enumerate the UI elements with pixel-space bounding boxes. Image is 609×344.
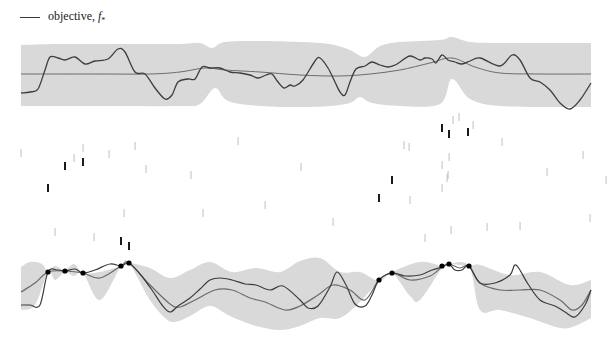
tick-mark <box>124 209 125 217</box>
evaluation-ticks <box>21 113 607 250</box>
tick-mark <box>135 142 136 150</box>
tick-mark <box>606 176 607 184</box>
tick-mark <box>583 151 584 159</box>
observation-point <box>80 270 85 275</box>
tick-mark <box>333 218 334 226</box>
tick-mark <box>83 144 84 152</box>
observation-point <box>126 260 131 265</box>
observation-point <box>62 268 67 273</box>
figure <box>0 0 609 344</box>
tick-mark <box>453 116 454 124</box>
tick-mark-selected <box>441 124 443 132</box>
observation-point <box>118 263 123 268</box>
tick-mark <box>487 223 488 231</box>
tick-mark <box>547 168 548 176</box>
tick-mark <box>502 138 503 146</box>
tick-mark-selected <box>378 194 380 202</box>
tick-mark <box>409 143 410 151</box>
tick-mark <box>404 141 405 149</box>
tick-mark-selected <box>47 184 49 192</box>
tick-mark <box>590 214 591 222</box>
observation-point <box>376 277 381 282</box>
tick-mark <box>451 226 452 234</box>
observation-point <box>466 263 471 268</box>
tick-mark <box>425 234 426 242</box>
tick-mark-selected <box>128 242 130 250</box>
observation-point <box>389 270 394 275</box>
tick-mark <box>146 165 147 173</box>
tick-mark-selected <box>120 237 122 245</box>
tick-mark <box>442 161 443 169</box>
tick-mark <box>94 233 95 241</box>
tick-mark <box>449 153 450 161</box>
tick-mark-selected <box>448 130 450 138</box>
tick-mark <box>265 201 266 209</box>
tick-mark <box>74 154 75 162</box>
tick-mark <box>109 150 110 158</box>
prior-uncertainty-band <box>21 37 591 107</box>
tick-mark-selected <box>467 128 469 136</box>
posterior-uncertainty-band <box>21 257 591 330</box>
tick-mark <box>448 171 449 179</box>
tick-mark-selected <box>82 158 84 166</box>
tick-mark <box>410 196 411 204</box>
observation-point <box>446 261 451 266</box>
tick-mark <box>191 171 192 179</box>
tick-mark <box>442 184 443 192</box>
tick-mark <box>447 174 448 182</box>
tick-mark-selected <box>64 162 66 170</box>
observation-point <box>439 263 444 268</box>
tick-mark <box>238 137 239 145</box>
tick-mark <box>21 149 22 157</box>
tick-mark-selected <box>391 176 393 184</box>
tick-mark <box>459 113 460 121</box>
posterior-plot <box>21 257 591 330</box>
tick-mark <box>203 209 204 217</box>
prior-plot <box>21 37 591 109</box>
tick-mark <box>55 228 56 236</box>
observation-point <box>45 269 50 274</box>
tick-mark <box>301 163 302 171</box>
tick-mark <box>473 121 474 129</box>
tick-mark <box>520 222 521 230</box>
